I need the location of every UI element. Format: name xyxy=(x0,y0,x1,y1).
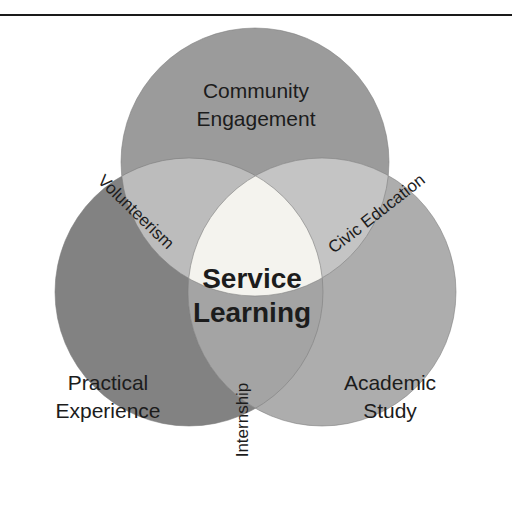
label-community-engagement-line2: Engagement xyxy=(196,107,315,130)
venn-diagram-figure: Community Engagement Practical Experienc… xyxy=(0,0,512,520)
label-academic-study-line2: Study xyxy=(363,399,417,422)
label-service-learning-line1: Service xyxy=(202,263,302,294)
label-service-learning-line2: Learning xyxy=(193,297,311,328)
label-academic-study-line1: Academic xyxy=(344,371,436,394)
label-internship: Internship xyxy=(233,383,252,458)
venn-diagram-page: Community Engagement Practical Experienc… xyxy=(0,0,512,520)
label-practical-experience-line1: Practical xyxy=(68,371,149,394)
label-community-engagement-line1: Community xyxy=(203,79,310,102)
label-practical-experience-line2: Experience xyxy=(55,399,160,422)
venn-svg-canvas: Community Engagement Practical Experienc… xyxy=(0,0,512,520)
